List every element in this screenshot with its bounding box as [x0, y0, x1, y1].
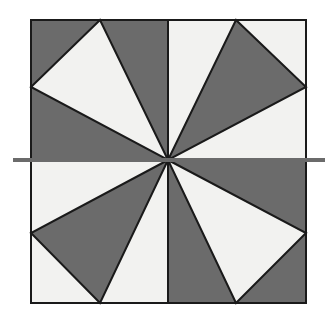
- figure-canvas: [0, 0, 336, 322]
- pinwheel-figure: [0, 0, 336, 322]
